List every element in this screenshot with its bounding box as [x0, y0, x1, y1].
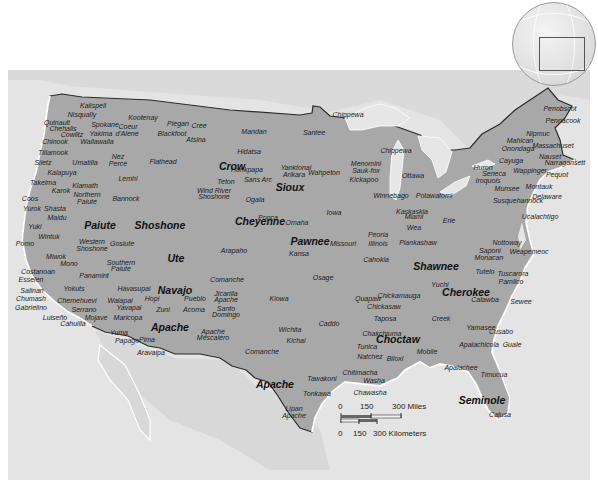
tribe-label: Peoria — [368, 231, 388, 238]
tribe-label: Perce — [109, 160, 127, 167]
tribe-label: Apalachicola — [459, 341, 499, 348]
tribe-label: Lipan — [285, 405, 302, 412]
tribe-label: Navajo — [158, 285, 192, 296]
tribe-label: Sewee — [510, 298, 531, 305]
tribe-label: Yuki — [28, 223, 41, 230]
tribe-label: Cheyenne — [235, 216, 285, 227]
tribe-label: Atsina — [186, 136, 205, 143]
tribe-label: Yuma — [110, 329, 128, 336]
tribe-label: Chumash — [16, 295, 46, 302]
tribe-label: Guale — [503, 341, 522, 348]
tribe-label: Mono — [60, 260, 78, 267]
tribe-label: Mahican — [507, 137, 533, 144]
tribe-label: Kickapoo — [350, 176, 379, 183]
tribe-label: Tonkawa — [303, 390, 331, 397]
tribe-label: Serrano — [72, 306, 97, 313]
tribe-label: Pamlico — [499, 278, 524, 285]
tribe-label: Havasupai — [117, 285, 150, 292]
tribe-label: Salinan — [20, 287, 43, 294]
tribe-label: Klamath — [72, 182, 98, 189]
tribe-label: Paiute — [111, 265, 131, 272]
tribe-label: Piankashaw — [399, 239, 437, 246]
tribe-label: Cherokee — [442, 287, 490, 298]
tribe-label: Siletz — [34, 159, 51, 166]
tribe-label: Apache — [214, 296, 238, 303]
tribe-label: Spokane — [91, 121, 119, 128]
tribe-label: Chippewa — [380, 147, 411, 154]
tribe-label: Yavapai — [117, 304, 142, 311]
tribe-label: Acoma — [183, 306, 205, 313]
tribe-label: Natchez — [357, 353, 383, 360]
tribe-label: Yokuts — [63, 285, 84, 292]
tribe-label: Massachuset — [532, 142, 573, 149]
tribe-label: Tutelo — [476, 268, 495, 275]
tribe-label: Teton — [217, 178, 234, 185]
scale-miles-300: 300 Miles — [392, 402, 426, 411]
scale-km-150: 150 — [353, 429, 366, 438]
tribe-label: Walapai — [107, 297, 132, 304]
tribe-label: Tillamook — [38, 149, 68, 156]
tribe-label: Tawakoni — [307, 375, 336, 382]
tribe-label: Lemhi — [118, 175, 137, 182]
tribe-label: Wallawalla — [80, 138, 113, 145]
tribe-label: Ottawa — [402, 172, 424, 179]
tribe-label: Papago — [115, 337, 139, 344]
tribe-label: Shawnee — [413, 261, 459, 272]
tribe-label: Chawasha — [353, 389, 386, 396]
tribe-label: Tunica — [357, 343, 378, 350]
tribe-label: Chickamauga — [378, 292, 421, 299]
tribe-label: Cowlitz — [61, 131, 84, 138]
tribe-label: Wintuk — [38, 233, 59, 240]
tribe-label: Apache — [151, 322, 189, 333]
tribe-label: Bannock — [112, 195, 139, 202]
tribe-label: Apache — [256, 379, 294, 390]
tribe-label: Choctaw — [376, 334, 420, 345]
tribe-label: Sans Arc — [244, 176, 272, 183]
tribe-label: Domingo — [212, 311, 240, 318]
tribe-label: Calusa — [489, 411, 511, 418]
tribe-label: Flathead — [149, 158, 176, 165]
tribe-label: Kalapuya — [47, 169, 76, 176]
tribe-label: Pequot — [546, 171, 568, 178]
tribe-label: Kichai — [286, 337, 305, 344]
tribe-label: Chitimacha — [342, 369, 377, 376]
tribe-label: Blackfoot — [158, 130, 187, 137]
tribe-label: Chinook — [42, 138, 68, 145]
tribe-label: Coeur — [118, 123, 137, 130]
tribe-label: Creek — [432, 315, 451, 322]
tribe-label: Kalispell — [80, 102, 106, 109]
tribe-label: Piegan — [167, 120, 189, 127]
tribe-label: Mobile — [417, 348, 438, 355]
tribe-label: Maidu — [47, 214, 66, 221]
tribe-label: Takelma — [30, 179, 56, 186]
tribe-label: Shoshone — [135, 220, 186, 231]
tribe-label: Iowa — [327, 209, 342, 216]
tribe-label: Gabrielino — [15, 304, 47, 311]
tribe-label: Pomo — [16, 240, 34, 247]
tribe-label: Mescalero — [197, 334, 229, 341]
tribe-label: Munsee — [495, 185, 520, 192]
tribe-label: Taposa — [374, 315, 397, 322]
tribe-label: Winnebago — [373, 192, 408, 199]
tribe-label: Costanoan — [21, 268, 55, 275]
locator-globe — [512, 2, 596, 86]
tribe-label: Wichita — [279, 326, 302, 333]
tribe-label: Penobscot — [543, 105, 576, 112]
tribe-label: Osage — [313, 274, 334, 281]
tribe-label: Mojave — [85, 314, 108, 321]
tribe-label: Chippewa — [332, 111, 363, 118]
tribe-label: Cahuilla — [60, 320, 85, 327]
tribe-label: Western — [79, 238, 105, 245]
tribe-label: Miami — [405, 213, 424, 220]
tribe-label: Coos — [22, 195, 38, 202]
tribe-label: Arapaho — [221, 247, 247, 254]
tribe-label: Delaware — [532, 193, 562, 200]
tribe-label: Sauk-fox — [352, 167, 380, 174]
scale-miles-150: 150 — [360, 402, 373, 411]
tribe-label: Montauk — [526, 183, 553, 190]
tribe-label: Apalachee — [444, 364, 477, 371]
tribe-label: Kansa — [289, 250, 309, 257]
tribe-label: d'Alene — [115, 130, 138, 137]
tribe-label: Chickasaw — [367, 303, 401, 310]
tribe-label: Kootenay — [128, 114, 158, 121]
